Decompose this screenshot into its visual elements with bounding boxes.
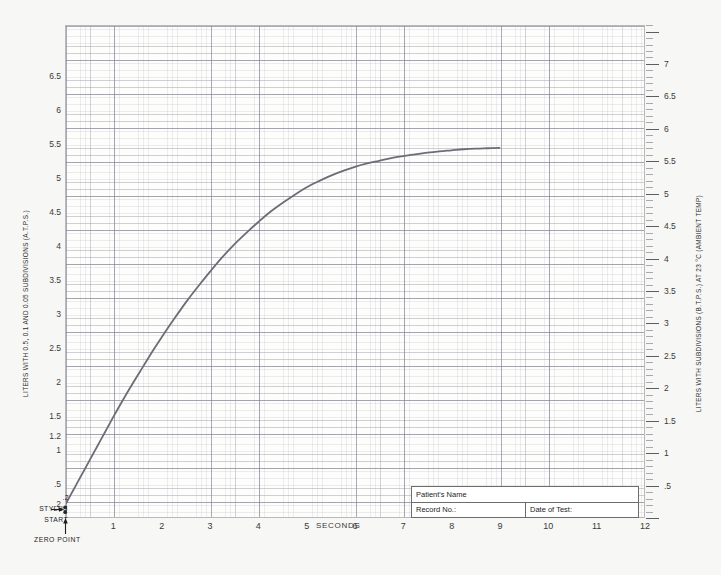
y-axis-right-ruler-tick bbox=[646, 323, 659, 324]
x-axis-tick: 8 bbox=[449, 521, 454, 531]
x-axis-tick: 2 bbox=[159, 521, 164, 531]
start-point-markers bbox=[62, 505, 74, 517]
y-axis-left-tick: 1.2 bbox=[49, 431, 61, 441]
y-axis-left-tick: 5.5 bbox=[49, 139, 61, 149]
record-no-field[interactable]: Record No.: bbox=[412, 503, 525, 518]
y-axis-right-tick: 2.5 bbox=[664, 351, 676, 361]
y-axis-right-ruler-tick bbox=[646, 161, 659, 162]
y-axis-right-tick: 4 bbox=[664, 254, 669, 264]
y-axis-right-ruler-tick bbox=[646, 200, 653, 201]
x-axis-title: SECONDS bbox=[316, 521, 360, 530]
y-axis-right-ruler-tick bbox=[646, 174, 653, 175]
y-axis-right-ruler-tick bbox=[646, 109, 653, 110]
y-axis-right-ruler bbox=[646, 25, 662, 518]
y-axis-right-ruler-tick bbox=[646, 207, 653, 208]
y-axis-left-tick: .5 bbox=[54, 479, 61, 489]
y-axis-right-ruler-tick bbox=[646, 64, 659, 65]
y-axis-right-ruler-tick bbox=[646, 427, 653, 428]
y-axis-right-ruler-tick bbox=[646, 57, 653, 58]
y-axis-right-ruler-tick bbox=[646, 90, 653, 91]
y-axis-right-ruler-tick bbox=[646, 382, 653, 383]
y-axis-right-ruler-tick bbox=[646, 336, 653, 337]
y-axis-right-tick: 1.5 bbox=[664, 416, 676, 426]
y-axis-left-title: LITERS WITH 0.5, 0.1 AND 0.05 SUBDIVISIO… bbox=[22, 184, 29, 424]
y-axis-left-tick: 6 bbox=[56, 105, 61, 115]
y-axis-right-ruler-tick bbox=[646, 25, 653, 26]
y-axis-right-ruler-tick bbox=[646, 395, 653, 396]
y-axis-right-ruler-tick bbox=[646, 122, 653, 123]
y-axis-right-ruler-tick bbox=[646, 252, 653, 253]
spirogram-curve bbox=[66, 26, 644, 517]
y-axis-right-tick: 3.5 bbox=[664, 286, 676, 296]
y-axis-right-ruler-tick bbox=[646, 83, 653, 84]
y-axis-right-ruler-tick bbox=[646, 181, 653, 182]
y-axis-right-tick: 7 bbox=[664, 59, 669, 69]
y-axis-right-ruler-tick bbox=[646, 233, 653, 234]
y-axis-right-ruler-tick bbox=[646, 440, 653, 441]
record-no-label: Record No.: bbox=[416, 505, 456, 514]
y-axis-right-ruler-tick bbox=[646, 434, 653, 435]
patient-info-form: Patient's Name Record No.: Date of Test: bbox=[411, 486, 639, 518]
zero-point-label: ZERO POINT bbox=[34, 536, 81, 543]
y-axis-right-title: LITERS WITH SUBDIVISIONS (B.T.P.S.) AT 2… bbox=[695, 184, 702, 424]
y-axis-left-tick: 3.5 bbox=[49, 275, 61, 285]
x-axis-tick: 12 bbox=[640, 521, 650, 531]
y-axis-right-ruler-tick bbox=[646, 388, 659, 389]
y-axis-right-ruler-tick bbox=[646, 285, 653, 286]
y-axis-left-tick: 2.5 bbox=[49, 343, 61, 353]
y-axis-right-tick-labels: .511.522.533.544.555.566.57 bbox=[664, 25, 694, 518]
y-axis-right-ruler-tick bbox=[646, 421, 659, 422]
y-axis-right-ruler-tick bbox=[646, 310, 653, 311]
form-row-patient-name: Patient's Name bbox=[412, 487, 638, 502]
y-axis-right-ruler-tick bbox=[646, 369, 653, 370]
y-axis-right-tick: 5 bbox=[664, 189, 669, 199]
y-axis-right-ruler-tick bbox=[646, 194, 659, 195]
patient-name-label: Patient's Name bbox=[416, 490, 467, 499]
y-axis-right-ruler-tick bbox=[646, 272, 653, 273]
y-axis-right-tick: 5.5 bbox=[664, 156, 676, 166]
y-axis-right-ruler-tick bbox=[646, 246, 653, 247]
y-axis-right-tick: .5 bbox=[664, 481, 671, 491]
y-axis-right-ruler-tick bbox=[646, 96, 659, 97]
y-axis-right-ruler-tick bbox=[646, 226, 659, 227]
y-axis-right-ruler-tick bbox=[646, 401, 653, 402]
y-axis-right-ruler-tick bbox=[646, 103, 653, 104]
y-axis-right-ruler-tick bbox=[646, 297, 653, 298]
x-axis-tick: 5 bbox=[304, 521, 309, 531]
y-axis-left-tick-labels: .2.511.21.522.533.544.555.566.5 bbox=[28, 25, 61, 518]
form-row-record-date: Record No.: Date of Test: bbox=[412, 502, 638, 518]
y-axis-right-ruler-tick bbox=[646, 129, 659, 130]
zero-point-arrow-icon bbox=[61, 518, 70, 534]
date-of-test-label: Date of Test: bbox=[530, 505, 572, 514]
y-axis-right-tick: 3 bbox=[664, 318, 669, 328]
y-axis-right-ruler-tick bbox=[646, 116, 653, 117]
x-axis-tick: 1 bbox=[111, 521, 116, 531]
y-axis-right-ruler-tick bbox=[646, 220, 653, 221]
y-axis-right-ruler-tick bbox=[646, 239, 653, 240]
y-axis-left-tick: 2 bbox=[56, 377, 61, 387]
y-axis-right-ruler-tick bbox=[646, 213, 653, 214]
y-axis-right-ruler-tick bbox=[646, 375, 653, 376]
x-axis-tick: 4 bbox=[256, 521, 261, 531]
y-axis-right-ruler-tick bbox=[646, 414, 653, 415]
y-axis-right-ruler-tick bbox=[646, 51, 653, 52]
x-axis-tick: 3 bbox=[207, 521, 212, 531]
y-axis-right-ruler-tick bbox=[646, 362, 653, 363]
y-axis-right-ruler-tick bbox=[646, 479, 653, 480]
y-axis-right-ruler-tick bbox=[646, 453, 659, 454]
y-axis-right-tick: 2 bbox=[664, 383, 669, 393]
x-axis-tick: 11 bbox=[592, 521, 601, 531]
y-axis-right-ruler-tick bbox=[646, 278, 653, 279]
y-axis-right-ruler-tick bbox=[646, 466, 653, 467]
y-axis-right-ruler-tick bbox=[646, 187, 653, 188]
patient-name-field[interactable]: Patient's Name bbox=[412, 487, 638, 502]
date-of-test-field[interactable]: Date of Test: bbox=[525, 503, 638, 518]
y-axis-right-ruler-tick bbox=[646, 343, 653, 344]
x-axis-tick: 9 bbox=[497, 521, 502, 531]
y-axis-right-ruler-tick bbox=[646, 518, 659, 519]
y-axis-right-ruler-tick bbox=[646, 505, 653, 506]
y-axis-right-ruler-tick bbox=[646, 317, 653, 318]
x-axis-tick: 7 bbox=[401, 521, 406, 531]
y-axis-right-tick: 6 bbox=[664, 124, 669, 134]
y-axis-right-ruler-tick bbox=[646, 291, 659, 292]
